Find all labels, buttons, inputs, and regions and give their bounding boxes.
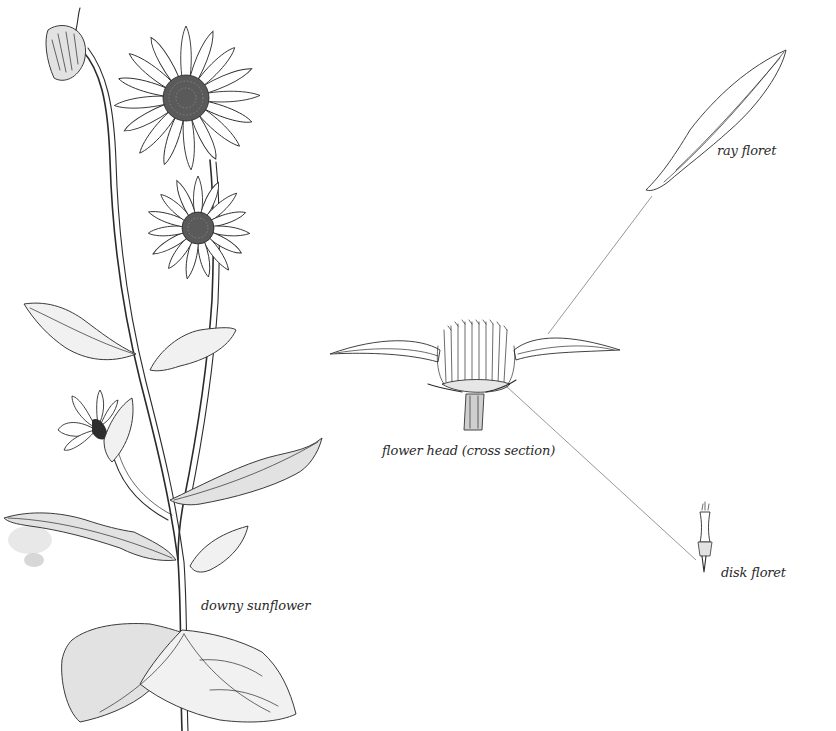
- leader-line-disk-floret: [506, 386, 696, 560]
- botanical-illustration: [0, 0, 836, 731]
- flower-head-large: [114, 26, 260, 170]
- label-flower-head-cross-section: flower head (cross section): [382, 443, 555, 458]
- flower-side-small: [58, 390, 133, 462]
- flower-head-medium: [147, 176, 250, 280]
- label-ray-floret: ray floret: [717, 143, 776, 158]
- label-disk-floret: disk floret: [721, 565, 786, 580]
- leader-line-ray-floret: [548, 196, 652, 334]
- disk-floret-detail: [698, 502, 712, 572]
- flower-head-cross-section: [330, 320, 620, 430]
- leaves: [4, 303, 322, 722]
- downy-sunflower-plant: [4, 8, 322, 731]
- ray-floret-detail: [646, 50, 786, 191]
- flower-bud: [46, 8, 86, 80]
- label-downy-sunflower: downy sunflower: [201, 598, 310, 613]
